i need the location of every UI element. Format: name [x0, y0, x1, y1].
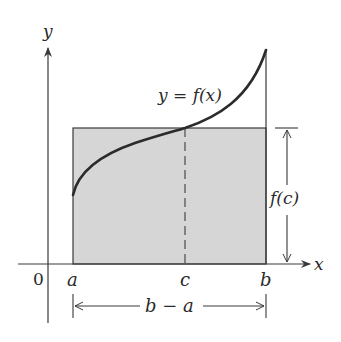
a-label: a — [67, 269, 78, 290]
b-label: b — [260, 269, 272, 290]
y-axis-label: y — [42, 21, 53, 41]
c-label: c — [180, 269, 190, 290]
x-axis-label: x — [314, 254, 324, 274]
mean-value-rectangle — [73, 128, 266, 264]
ba-label: b − a — [145, 295, 194, 316]
mvt-diagram: y x 0 a c b y = f(x) f(c) b − a — [0, 0, 341, 342]
origin-label: 0 — [33, 269, 44, 289]
fc-label: f(c) — [268, 188, 299, 208]
curve-label: y = f(x) — [157, 85, 222, 105]
